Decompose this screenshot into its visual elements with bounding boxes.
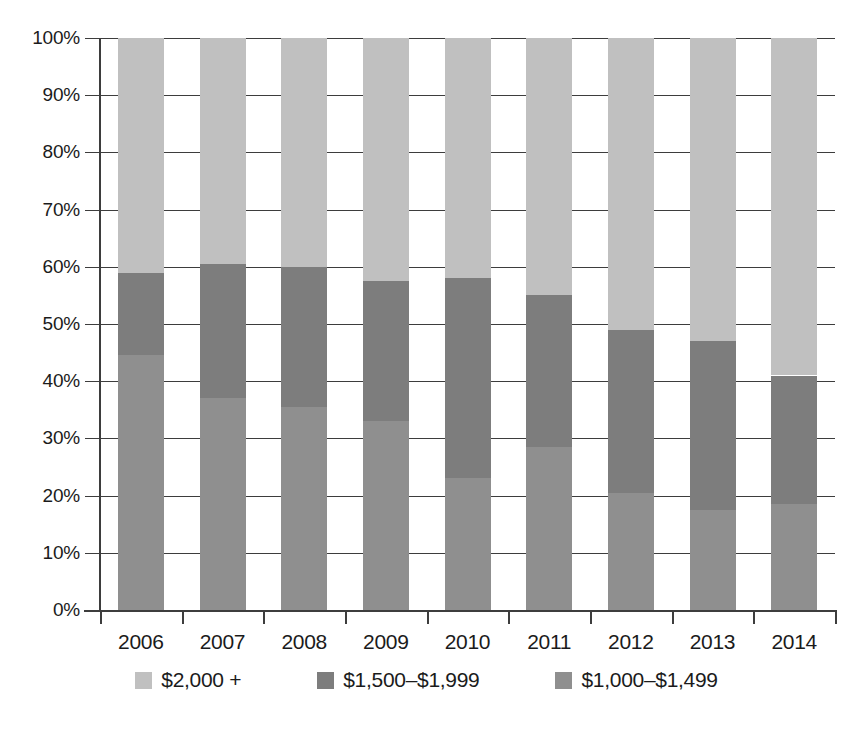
- chart-legend: $2,000 +$1,500–$1,999$1,000–$1,499: [0, 668, 853, 692]
- x-axis-tick-label: 2014: [753, 630, 835, 654]
- y-axis-tick-mark: [85, 38, 100, 39]
- y-axis-tick-label: 10%: [2, 543, 80, 562]
- x-axis-tick-label: 2012: [590, 630, 672, 654]
- y-axis-tick-mark: [85, 267, 100, 268]
- x-axis-tick-mark: [182, 610, 184, 624]
- bar-segment[interactable]: [608, 330, 654, 493]
- bar-segment[interactable]: [200, 398, 246, 610]
- y-axis-tick-label: 90%: [2, 85, 80, 104]
- bar-segment[interactable]: [363, 421, 409, 610]
- legend-swatch-icon: [135, 672, 152, 689]
- x-axis-tick-label: 2013: [672, 630, 754, 654]
- bar-group[interactable]: [445, 38, 491, 610]
- legend-item[interactable]: $2,000 +: [135, 668, 241, 692]
- bar-segment[interactable]: [608, 493, 654, 610]
- bar-group[interactable]: [690, 38, 736, 610]
- bar-segment[interactable]: [281, 267, 327, 407]
- x-axis-tick-label: 2011: [508, 630, 590, 654]
- legend-swatch-icon: [317, 672, 334, 689]
- x-axis-tick-mark: [345, 610, 347, 624]
- y-axis-tick-label: 70%: [2, 200, 80, 219]
- bar-segment[interactable]: [363, 281, 409, 421]
- bar-segment[interactable]: [200, 38, 246, 264]
- bar-segment[interactable]: [445, 478, 491, 610]
- legend-label: $1,500–$1,999: [343, 668, 479, 692]
- y-axis-tick-label: 80%: [2, 142, 80, 161]
- y-axis-tick-label: 0%: [2, 600, 80, 619]
- y-axis-tick-mark: [85, 324, 100, 325]
- x-axis-tick-mark: [672, 610, 674, 624]
- bar-segment[interactable]: [690, 38, 736, 341]
- x-axis-tick-mark: [100, 610, 102, 624]
- x-axis-tick-mark: [508, 610, 510, 624]
- bar-segment[interactable]: [281, 407, 327, 610]
- bar-group[interactable]: [526, 38, 572, 610]
- legend-item[interactable]: $1,000–$1,499: [555, 668, 717, 692]
- y-axis-line: [99, 38, 101, 611]
- y-axis-tick-label: 40%: [2, 371, 80, 390]
- x-axis-line: [84, 610, 835, 612]
- bar-group[interactable]: [363, 38, 409, 610]
- bar-segment[interactable]: [526, 295, 572, 447]
- y-axis-tick-label: 100%: [2, 28, 80, 47]
- bar-group[interactable]: [281, 38, 327, 610]
- y-axis-tick-label: 60%: [2, 257, 80, 276]
- x-axis-tick-mark: [753, 610, 755, 624]
- bar-segment[interactable]: [771, 504, 817, 610]
- bar-segment[interactable]: [690, 510, 736, 610]
- y-axis-tick-mark: [85, 210, 100, 211]
- bar-segment[interactable]: [526, 38, 572, 295]
- y-axis-tick-mark: [85, 438, 100, 439]
- bar-segment[interactable]: [771, 376, 817, 505]
- plot-area: [100, 38, 835, 610]
- stacked-bar-chart: 0%10%20%30%40%50%60%70%80%90%100% 200620…: [0, 0, 853, 730]
- bar-segment[interactable]: [526, 447, 572, 610]
- legend-label: $2,000 +: [161, 668, 241, 692]
- x-axis-tick-label: 2009: [345, 630, 427, 654]
- y-axis-tick-mark: [85, 152, 100, 153]
- bar-group[interactable]: [118, 38, 164, 610]
- bar-segment[interactable]: [118, 273, 164, 356]
- x-axis-tick-mark: [590, 610, 592, 624]
- bar-segment[interactable]: [118, 355, 164, 610]
- bar-segment[interactable]: [281, 38, 327, 267]
- bar-segment[interactable]: [118, 38, 164, 273]
- x-axis-tick-mark: [427, 610, 429, 624]
- x-axis-tick-label: 2010: [427, 630, 509, 654]
- x-axis-tick-label: 2006: [100, 630, 182, 654]
- x-axis-tick-label: 2007: [182, 630, 264, 654]
- bar-segment[interactable]: [445, 278, 491, 478]
- bar-group[interactable]: [771, 38, 817, 610]
- y-axis-tick-label: 20%: [2, 486, 80, 505]
- legend-swatch-icon: [555, 672, 572, 689]
- bar-segment[interactable]: [200, 264, 246, 398]
- bar-segment[interactable]: [445, 38, 491, 278]
- legend-item[interactable]: $1,500–$1,999: [317, 668, 479, 692]
- bar-segment[interactable]: [608, 38, 654, 330]
- y-axis-tick-mark: [85, 381, 100, 382]
- x-axis-tick-label: 2008: [263, 630, 345, 654]
- bar-segment[interactable]: [363, 38, 409, 281]
- y-axis-tick-mark: [85, 553, 100, 554]
- bar-segment[interactable]: [690, 341, 736, 510]
- bar-segment[interactable]: [771, 38, 817, 375]
- legend-label: $1,000–$1,499: [581, 668, 717, 692]
- y-axis-tick-label: 50%: [2, 314, 80, 333]
- y-axis-tick-mark: [85, 95, 100, 96]
- y-axis-tick-label: 30%: [2, 428, 80, 447]
- y-axis-tick-mark: [85, 496, 100, 497]
- x-axis-tick-mark: [835, 610, 837, 624]
- bar-group[interactable]: [608, 38, 654, 610]
- x-axis-tick-mark: [263, 610, 265, 624]
- bar-group[interactable]: [200, 38, 246, 610]
